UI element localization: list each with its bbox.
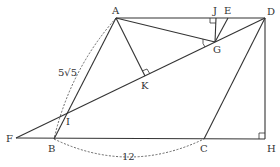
right-angle-h	[259, 133, 265, 139]
segment-jg	[215, 18, 216, 42]
right-angle-j	[210, 18, 216, 23]
label-bc-length: 12	[122, 151, 135, 162]
segment-ab	[54, 18, 116, 139]
geometry-figure: A D J E G K I F B C H 5√5 12	[0, 0, 280, 167]
segment-dc	[204, 18, 265, 139]
label-i: I	[66, 116, 70, 127]
label-a: A	[111, 5, 120, 16]
label-g: G	[213, 44, 221, 55]
label-h: H	[267, 143, 276, 154]
label-k: K	[141, 80, 149, 91]
label-f: F	[6, 133, 13, 144]
label-j: J	[212, 5, 217, 16]
label-ab-length: 5√5	[58, 67, 77, 78]
label-d: D	[267, 6, 275, 17]
label-c: C	[200, 143, 208, 154]
segment-fh	[16, 138, 265, 139]
label-b: B	[48, 143, 55, 154]
segment-ak	[116, 18, 145, 76]
label-e: E	[224, 5, 231, 16]
segment-ag	[116, 18, 215, 42]
angle-mark-g	[203, 39, 205, 47]
segment-fd	[16, 18, 265, 138]
